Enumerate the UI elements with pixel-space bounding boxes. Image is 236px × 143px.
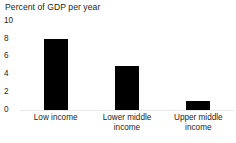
category-label-line1: Low income (21, 113, 90, 123)
bar-0 (44, 39, 68, 110)
category-label-line2: income (164, 123, 233, 133)
category-label-line1: Lower middle (92, 113, 161, 123)
category-label-line2: income (92, 123, 161, 133)
bar-1 (115, 66, 139, 111)
bar-2 (186, 101, 210, 110)
category-label-line1: Upper middle (164, 113, 233, 123)
category-label-1: Lower middleincome (91, 113, 162, 132)
category-label-2: Upper middleincome (163, 113, 234, 132)
category-label-0: Low income (20, 113, 91, 123)
x-axis-category-labels: Low incomeLower middleincomeUpper middle… (20, 113, 234, 143)
bar-chart: Percent of GDP per year 1086420 Low inco… (0, 0, 236, 143)
